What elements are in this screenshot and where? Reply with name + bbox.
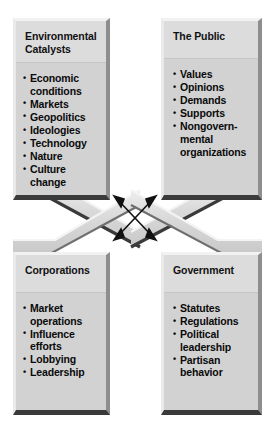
list-item: Market operations bbox=[23, 302, 102, 327]
list-item: Culture change bbox=[23, 163, 102, 188]
node-title: Corporations bbox=[25, 264, 106, 277]
list-item: Markets bbox=[23, 98, 102, 111]
list-item: Nongovern-mental organizations bbox=[173, 120, 254, 158]
node-title-panel: Corporations bbox=[16, 255, 106, 293]
list-item: Statutes bbox=[173, 302, 254, 315]
list-item: Values bbox=[173, 68, 254, 81]
node-title-panel: The Public bbox=[164, 21, 258, 59]
node-body: Values Opinions Demands Supports Nongove… bbox=[164, 59, 258, 195]
list-item: Opinions bbox=[173, 81, 254, 94]
list-item: Leadership bbox=[23, 366, 102, 379]
list-item: Ideologies bbox=[23, 124, 102, 137]
diagram-canvas: Environmental Catalysts Economic conditi… bbox=[0, 0, 270, 435]
list-item: Supports bbox=[173, 107, 254, 120]
node-environmental-catalysts[interactable]: Environmental Catalysts Economic conditi… bbox=[13, 18, 110, 200]
list-item: Technology bbox=[23, 137, 102, 150]
list-item: Influence efforts bbox=[23, 328, 102, 353]
list-item: Demands bbox=[173, 94, 254, 107]
node-title: The Public bbox=[173, 30, 258, 43]
node-government[interactable]: Government Statutes Regulations Politica… bbox=[161, 252, 262, 415]
node-title-panel: Environmental Catalysts bbox=[16, 21, 106, 63]
node-item-list: Economic conditions Markets Geopolitics … bbox=[23, 72, 102, 188]
list-item: Partisan behavior bbox=[173, 354, 254, 379]
list-item: Political leadership bbox=[173, 328, 254, 353]
node-body: Statutes Regulations Political leadershi… bbox=[164, 293, 258, 410]
list-item: Economic conditions bbox=[23, 72, 102, 97]
node-the-public[interactable]: The Public Values Opinions Demands Suppo… bbox=[161, 18, 262, 200]
node-item-list: Statutes Regulations Political leadershi… bbox=[173, 302, 254, 379]
node-title: Environmental Catalysts bbox=[25, 30, 106, 55]
list-item: Geopolitics bbox=[23, 111, 102, 124]
node-body: Economic conditions Markets Geopolitics … bbox=[16, 63, 106, 195]
node-corporations[interactable]: Corporations Market operations Influence… bbox=[13, 252, 110, 415]
list-item: Regulations bbox=[173, 315, 254, 328]
list-item: Lobbying bbox=[23, 353, 102, 366]
node-item-list: Values Opinions Demands Supports Nongove… bbox=[173, 68, 254, 158]
node-title: Government bbox=[173, 264, 258, 277]
list-item: Nature bbox=[23, 150, 102, 163]
node-title-panel: Government bbox=[164, 255, 258, 293]
node-item-list: Market operations Influence efforts Lobb… bbox=[23, 302, 102, 379]
node-body: Market operations Influence efforts Lobb… bbox=[16, 293, 106, 410]
